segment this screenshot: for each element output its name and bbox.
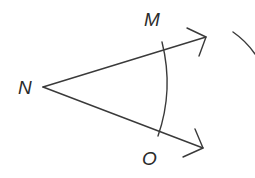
angle-diagram: M N O bbox=[0, 0, 255, 178]
label-n: N bbox=[18, 77, 32, 98]
ray-nm bbox=[43, 37, 206, 87]
partial-arc-right bbox=[233, 32, 255, 54]
ray-no bbox=[43, 87, 203, 148]
arrowhead-o-icon bbox=[183, 129, 203, 157]
label-m: M bbox=[144, 9, 160, 30]
label-o: O bbox=[142, 148, 157, 169]
construction-arc bbox=[158, 42, 167, 136]
